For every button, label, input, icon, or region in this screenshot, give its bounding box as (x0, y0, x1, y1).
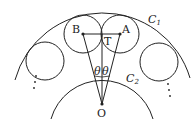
circle-ring-diagram: B A T O θ θ C1 C2 (0, 0, 195, 127)
label-a: A (121, 23, 131, 36)
label-b: B (72, 23, 80, 36)
ellipsis-right (167, 83, 171, 97)
circle-right (140, 43, 178, 81)
point-b (81, 32, 84, 35)
label-t: T (104, 35, 112, 48)
point-o (100, 102, 103, 105)
label-c2: C2 (126, 72, 139, 86)
label-theta-right: θ (102, 65, 109, 78)
label-c1: C1 (148, 13, 161, 27)
label-theta-left: θ (94, 65, 101, 78)
circle-left (26, 42, 64, 80)
label-o: O (97, 107, 106, 120)
